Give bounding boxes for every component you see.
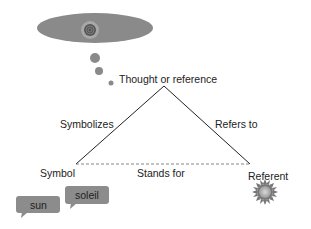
referent-sun-icon <box>252 179 278 205</box>
bubble-text-soleil: soleil <box>75 190 99 201</box>
symbolizes-label: Symbolizes <box>60 119 114 130</box>
sun-in-thought-icon <box>81 21 99 39</box>
referent-label: Referent <box>248 171 288 182</box>
bubble-text-sun: sun <box>30 200 47 211</box>
diagram-canvas <box>0 0 311 229</box>
symbol-label: Symbol <box>40 168 75 179</box>
thought-label: Thought or reference <box>119 74 217 85</box>
semiotic-diagram: Thought or reference Symbolizes Refers t… <box>0 0 311 229</box>
refers-to-label: Refers to <box>215 119 258 130</box>
stands-for-label: Stands for <box>137 168 185 179</box>
